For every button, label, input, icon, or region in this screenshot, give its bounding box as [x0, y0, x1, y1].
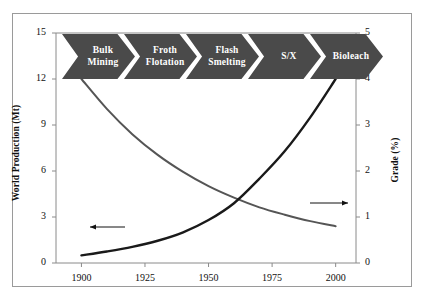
series-grade	[81, 79, 335, 226]
milestone-label-line2: Flotation	[146, 57, 185, 69]
milestone-label-line1: Bioleach	[333, 51, 369, 63]
milestone-label-line2: Mining	[88, 57, 119, 69]
x-axis-tick-label: 1925	[125, 272, 165, 283]
x-axis-tick-label: 1900	[61, 272, 101, 283]
left-axis-tick-label: 15	[20, 26, 46, 37]
right-axis-tick-label: 1	[365, 210, 391, 221]
milestone-label-line1: Froth	[146, 45, 185, 57]
left-axis-tick-label: 12	[20, 72, 46, 83]
left-axis-tick-label: 3	[20, 210, 46, 221]
series-production	[81, 79, 335, 255]
left-axis-tick-label: 0	[20, 256, 46, 267]
x-axis-tick-label: 1950	[189, 272, 229, 283]
left-axis	[52, 33, 56, 263]
right-axis-tick-label: 3	[365, 118, 391, 129]
left-axis-tick-label: 9	[20, 118, 46, 129]
right-axis-title: Grade (%)	[390, 120, 400, 200]
right-axis-tick-label: 0	[365, 256, 391, 267]
left-axis-tick-label: 6	[20, 164, 46, 175]
right-axis-tick-label: 2	[365, 164, 391, 175]
x-axis-tick-label: 2000	[316, 272, 356, 283]
x-axis-tick-label: 1975	[252, 272, 292, 283]
right-axis-tick-label: 5	[365, 26, 391, 37]
milestone-label-line2: Smelting	[208, 57, 246, 69]
milestone-label-line1: S/X	[281, 51, 296, 63]
milestone-label-line1: Flash	[208, 45, 246, 57]
milestone-label-line1: Bulk	[88, 45, 119, 57]
chart-page: World Production (Mt) Grade (%) 03691215…	[0, 0, 424, 300]
